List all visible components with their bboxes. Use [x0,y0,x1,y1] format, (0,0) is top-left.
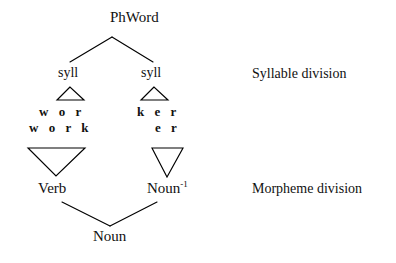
node-phword: PhWord [110,10,159,25]
node-verb: Verb [38,181,66,196]
node-noun-inverse: Noun-1 [147,181,188,196]
node-syllable-right: syll [141,66,161,80]
node-noun-root: Noun [93,229,126,244]
melody-syllable-right: k e r [137,105,180,118]
annotation-morpheme-division: Morpheme division [252,182,362,196]
triangle-verb-morpheme [28,148,85,176]
branch-noun-inverse-to-noun [110,202,157,226]
annotation-syllable-division: Syllable division [252,67,347,81]
melody-syllable-left: w o r [39,105,85,118]
branch-verb-to-noun [62,202,110,226]
node-noun-inverse-superscript: -1 [180,179,188,189]
node-syllable-left: syll [58,66,78,80]
linguistic-tree-diagram: PhWord syll syll w o r k e r w o r k e r… [0,0,396,263]
branch-phword-to-right-syll [112,37,153,62]
branch-phword-to-left-syll [70,37,112,62]
melody-morpheme-right: e r [155,121,180,134]
triangle-noun-inverse-morpheme [152,148,183,177]
triangle-left-syllable [57,87,84,100]
melody-morpheme-left: w o r k [29,121,92,134]
node-noun-inverse-base: Noun [147,180,180,196]
triangle-right-syllable [141,87,168,100]
